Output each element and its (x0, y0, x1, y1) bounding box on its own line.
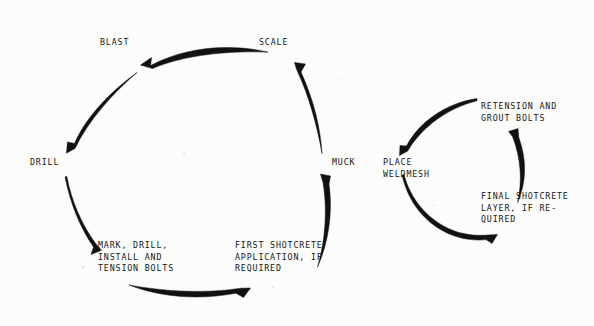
arrow-to-mark-drill (65, 176, 102, 254)
step-label-blast: BLAST (100, 37, 129, 49)
step-label-first-shotcrete: FIRST SHOTCRETE APPLICATION, IF REQUIRED (235, 240, 323, 275)
arrow-to-place-weldmesh (400, 99, 478, 156)
step-label-muck: MUCK (332, 157, 355, 169)
step-label-scale: SCALE (259, 37, 288, 49)
diagram-page: BLAST SCALE MUCK FIRST SHOTCRETE APPLICA… (0, 0, 594, 326)
step-label-mark-drill: MARK, DRILL, INSTALL AND TENSION BOLTS (98, 240, 174, 275)
arrow-to-blast (141, 47, 269, 68)
diagram-canvas (0, 0, 594, 326)
step-label-retension-grout: RETENSION AND GROUT BOLTS (481, 101, 557, 124)
step-label-place-weldmesh: PLACE WELDMESH (383, 157, 430, 180)
arrow-to-scale (295, 63, 323, 154)
arrow-to-first-shotcrete (129, 285, 251, 298)
arrow-to-drill (66, 73, 137, 154)
step-label-final-shotcrete: FINAL SHOTCRETE LAYER, IF RE- QUIRED (481, 191, 569, 226)
step-label-drill: DRILL (30, 157, 59, 169)
